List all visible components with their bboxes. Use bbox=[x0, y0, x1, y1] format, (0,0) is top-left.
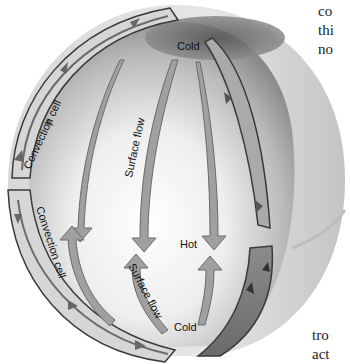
side-text-line: tro bbox=[312, 326, 329, 345]
side-text-top: co thi no bbox=[318, 2, 334, 59]
side-text-line: act bbox=[312, 345, 329, 364]
label-hot: Hot bbox=[180, 238, 197, 250]
side-text-line: no bbox=[318, 40, 334, 59]
sphere-illustration: Cold Hot Cold Surface flow Surface flow … bbox=[0, 0, 350, 364]
side-text-line: thi bbox=[318, 21, 334, 40]
side-text-line: co bbox=[318, 2, 334, 21]
side-text-bottom: tro act bbox=[312, 326, 329, 364]
label-cold-top: Cold bbox=[177, 40, 200, 52]
label-cold-bottom: Cold bbox=[174, 321, 197, 333]
convection-diagram: Cold Hot Cold Surface flow Surface flow … bbox=[0, 0, 350, 364]
